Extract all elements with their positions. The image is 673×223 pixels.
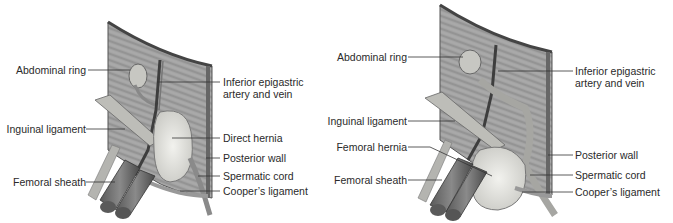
label-inferior-epigastric-line2: artery and vein bbox=[575, 77, 656, 89]
label-femoral-sheath: Femoral sheath bbox=[334, 174, 407, 186]
figure-direct-hernia: Abdominal ring Inguinal ligament Femoral… bbox=[0, 0, 336, 223]
label-inguinal-ligament: Inguinal ligament bbox=[328, 115, 407, 127]
label-abdominal-ring: Abdominal ring bbox=[16, 64, 86, 76]
label-direct-hernia: Direct hernia bbox=[223, 132, 283, 144]
label-posterior-wall: Posterior wall bbox=[223, 152, 286, 164]
label-femoral-sheath: Femoral sheath bbox=[13, 176, 86, 188]
label-inferior-epigastric-line1: Inferior epigastric bbox=[223, 76, 304, 88]
label-inferior-epigastric-line2: artery and vein bbox=[223, 88, 304, 100]
label-inferior-epigastric: Inferior epigastric artery and vein bbox=[223, 76, 304, 100]
label-spermatic-cord: Spermatic cord bbox=[223, 170, 294, 182]
label-inferior-epigastric: Inferior epigastric artery and vein bbox=[575, 65, 656, 89]
label-inferior-epigastric-line1: Inferior epigastric bbox=[575, 65, 656, 77]
label-abdominal-ring: Abdominal ring bbox=[337, 51, 407, 63]
label-inguinal-ligament: Inguinal ligament bbox=[7, 123, 86, 135]
label-posterior-wall: Posterior wall bbox=[575, 149, 638, 161]
label-coopers-ligament: Cooper’s ligament bbox=[223, 185, 308, 197]
label-femoral-hernia: Femoral hernia bbox=[336, 141, 407, 153]
label-coopers-ligament: Cooper’s ligament bbox=[575, 186, 660, 198]
figure-femoral-hernia: Abdominal ring Inguinal ligament Femoral… bbox=[330, 0, 673, 223]
label-spermatic-cord: Spermatic cord bbox=[575, 169, 646, 181]
